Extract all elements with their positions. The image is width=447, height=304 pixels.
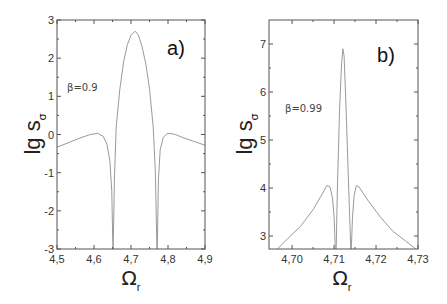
data-curve [277,49,416,249]
x-tick-label: 4,73 [407,253,428,265]
x-tick-label: 4,71 [323,253,344,265]
y-tick-label: 1 [48,90,54,102]
x-tick-label: 4,7 [123,253,138,265]
y-tick-label: -2 [44,205,54,217]
beta-annotation: β=0.9 [67,82,98,93]
beta-annotation: β=0.99 [285,103,322,114]
x-tick-label: 4,72 [365,253,386,265]
figure: 4,54,64,74,84,9-3-2-10123lg sσΩra)β=0.9 … [0,0,447,304]
x-tick-label: 4,70 [281,253,302,265]
x-tick-label: 4,9 [197,253,212,265]
y-axis-label: lg sσ [20,113,49,154]
y-tick-label: -1 [44,167,54,179]
y-tick-label: 6 [260,86,266,98]
y-tick-label: 7 [260,38,266,50]
panel-label: a) [167,37,185,59]
data-curve [57,31,205,249]
panel-label: b) [377,44,395,66]
y-tick-label: 0 [48,129,54,141]
y-tick-label: 4 [260,182,266,194]
x-axis-label: Ωr [122,266,141,293]
panel-b: 4,704,714,724,7334567lg sσΩrb)β=0.99 [232,20,429,293]
y-tick-label: 2 [48,52,54,64]
y-axis-label: lg sσ [232,113,261,154]
panel-a: 4,54,64,74,84,9-3-2-10123lg sσΩra)β=0.9 [20,14,213,293]
x-tick-label: 4,8 [160,253,175,265]
y-tick-label: 5 [260,134,266,146]
x-tick-label: 4,6 [86,253,101,265]
y-tick-label: -3 [44,243,54,255]
y-tick-label: 3 [260,230,266,242]
y-tick-label: 3 [48,14,54,26]
x-axis-label: Ωr [333,266,352,293]
